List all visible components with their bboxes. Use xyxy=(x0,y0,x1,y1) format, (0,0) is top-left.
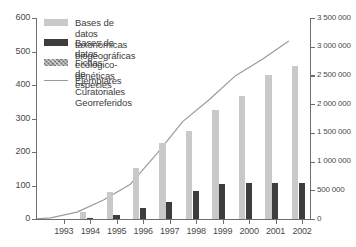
x-axis-tick xyxy=(249,220,250,224)
y-axis-left-label: 100 xyxy=(0,181,30,190)
y-axis-left-tick xyxy=(32,52,36,53)
y-axis-right-label: 1 500 000 xyxy=(317,128,351,136)
x-axis-tick xyxy=(143,220,144,224)
bar-ecologico-geneticas xyxy=(166,202,172,219)
x-axis-tick xyxy=(302,220,303,224)
legend-swatch-bar-dark-icon xyxy=(44,39,68,46)
y-axis-left-label: 300 xyxy=(0,114,30,123)
y-axis-right-label: 2 000 000 xyxy=(317,100,351,108)
y-axis-left-label: 0 xyxy=(0,214,30,223)
bar-ecologico-geneticas xyxy=(193,191,199,219)
chart-container: 01002003004005006000500 0001 000 0001 50… xyxy=(0,0,356,247)
x-axis-tick xyxy=(117,220,118,224)
y-axis-right-tick xyxy=(311,104,315,105)
y-axis-right-label: 1 000 000 xyxy=(317,157,351,165)
y-axis-right-label: 3 000 000 xyxy=(317,42,351,50)
x-axis-tick xyxy=(276,220,277,224)
x-axis-tick xyxy=(90,220,91,224)
y-axis-left-tick xyxy=(32,152,36,153)
bar-taxonomicas xyxy=(133,168,139,219)
x-axis-spine xyxy=(36,219,311,220)
x-axis-tick xyxy=(196,220,197,224)
y-axis-left-spine xyxy=(36,18,37,220)
bar-taxonomicas xyxy=(265,75,271,219)
y-axis-left-tick xyxy=(32,85,36,86)
y-axis-right-tick xyxy=(311,190,315,191)
y-axis-left-label: 200 xyxy=(0,147,30,156)
bar-taxonomicas xyxy=(239,96,245,219)
y-axis-right-label: 500 000 xyxy=(317,186,345,194)
y-axis-right-label: 2 500 000 xyxy=(317,71,351,79)
y-axis-right-tick xyxy=(311,133,315,134)
y-axis-left-tick xyxy=(32,119,36,120)
y-axis-right-label: 0 xyxy=(317,215,321,223)
y-axis-right-tick xyxy=(311,18,315,19)
legend-item-3: Ejemplares Curatoriales Georreferidos xyxy=(44,75,132,108)
y-axis-left-label: 400 xyxy=(0,80,30,89)
y-axis-right-label: 3 500 000 xyxy=(317,14,351,22)
y-axis-right-tick xyxy=(311,219,315,220)
bar-taxonomicas xyxy=(186,131,192,219)
bar-ecologico-geneticas xyxy=(299,183,305,219)
x-axis-label: 2002 xyxy=(286,227,318,236)
bar-taxonomicas xyxy=(212,110,218,219)
y-axis-right-tick xyxy=(311,75,315,76)
y-axis-left-tick xyxy=(32,18,36,19)
y-axis-right-tick xyxy=(311,162,315,163)
bar-taxonomicas xyxy=(292,66,298,219)
bar-ecologico-geneticas xyxy=(140,208,146,219)
x-axis-tick xyxy=(64,220,65,224)
legend-label: Ejemplares Curatoriales Georreferidos xyxy=(75,75,132,108)
y-axis-left-label: 500 xyxy=(0,47,30,56)
bar-ecologico-geneticas xyxy=(219,184,225,219)
bar-ecologico-geneticas xyxy=(246,183,252,219)
x-axis-tick xyxy=(170,220,171,224)
bar-taxonomicas xyxy=(159,143,165,219)
bar-taxonomicas xyxy=(80,212,86,219)
bar-taxonomicas xyxy=(107,192,113,219)
bar-ecologico-geneticas xyxy=(272,183,278,219)
x-axis-tick xyxy=(223,220,224,224)
legend-swatch-bar-hatched-icon xyxy=(44,59,68,66)
y-axis-right-tick xyxy=(311,47,315,48)
y-axis-left-tick xyxy=(32,186,36,187)
legend-swatch-bar-light-icon xyxy=(44,19,68,26)
y-axis-left-label: 600 xyxy=(0,13,30,22)
y-axis-left-tick xyxy=(32,219,36,220)
legend-swatch-line-icon xyxy=(44,80,68,81)
